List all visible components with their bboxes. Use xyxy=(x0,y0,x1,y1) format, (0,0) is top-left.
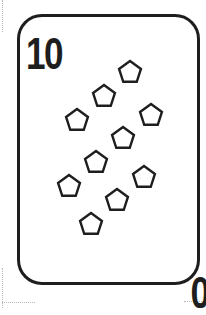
rank-top-label: 10 xyxy=(26,31,62,76)
pentagon-icon xyxy=(130,163,158,190)
pentagon-icon xyxy=(55,172,83,199)
crop-mark-bottom-left xyxy=(2,302,35,303)
pentagon-icon xyxy=(137,101,165,128)
pentagon-icon xyxy=(82,148,110,175)
pentagon-icon xyxy=(103,186,131,213)
pentagon-icon xyxy=(77,210,105,237)
pentagon-icon xyxy=(109,124,137,151)
rank-bottom-label: 10 xyxy=(192,270,206,315)
crop-mark-left-top xyxy=(2,0,3,32)
pentagon-icon xyxy=(63,106,91,133)
pentagon-icon xyxy=(116,58,144,85)
pentagon-icon xyxy=(90,82,118,109)
